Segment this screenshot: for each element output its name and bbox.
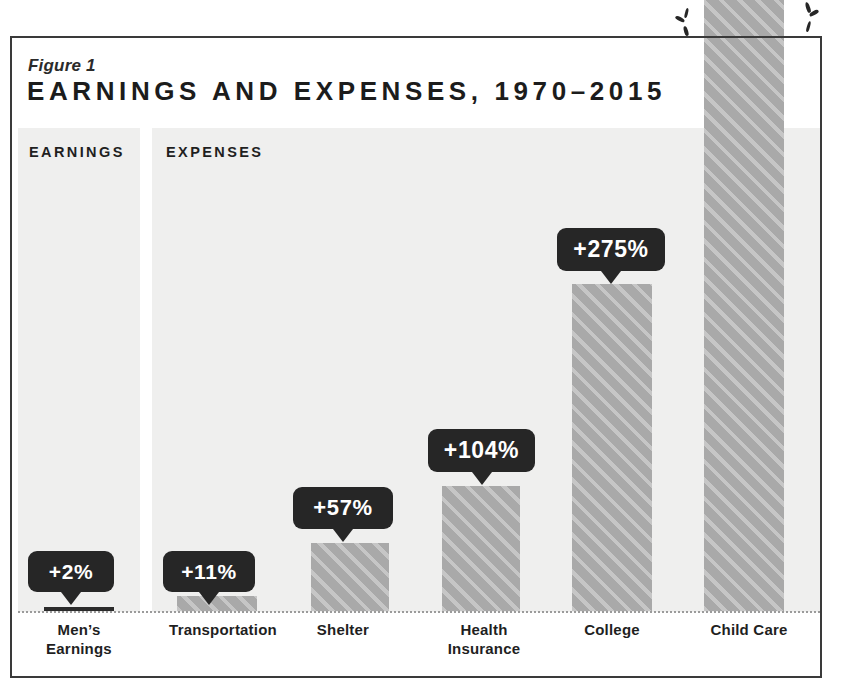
x-axis-label-line1: College — [553, 620, 671, 639]
x-axis-label-health-insurance: Health Insurance — [417, 620, 551, 658]
value-callout-mens-earnings: +2% — [28, 551, 114, 592]
panel-heading-earnings: EARNINGS — [29, 144, 125, 160]
x-axis-label-line1: Shelter — [293, 620, 393, 639]
x-axis-label-child-care: Child Care — [682, 620, 816, 639]
burst-spark-left-icon — [672, 6, 702, 38]
x-axis-label-transportation: Transportation — [152, 620, 294, 639]
x-axis-label-line2: Insurance — [417, 639, 551, 658]
value-callout-health-insurance: +104% — [428, 429, 535, 472]
burst-spark-right-icon — [796, 2, 826, 36]
page-title: EARNINGS AND EXPENSES, 1970–2015 — [27, 76, 666, 107]
value-callout-shelter: +57% — [293, 487, 393, 529]
figure-frame — [10, 36, 822, 678]
x-axis-label-shelter: Shelter — [293, 620, 393, 639]
x-axis-label-line1: Transportation — [152, 620, 294, 639]
x-axis-label-line1: Men’s — [18, 620, 140, 639]
figure-label: Figure 1 — [28, 56, 96, 76]
axis-baseline — [18, 611, 820, 613]
value-callout-college: +275% — [557, 228, 665, 271]
x-axis-label-line1: Child Care — [682, 620, 816, 639]
x-axis-label-line2: Earnings — [18, 639, 140, 658]
x-axis-label-mens-earnings: Men’s Earnings — [18, 620, 140, 658]
x-axis-label-college: College — [553, 620, 671, 639]
value-callout-transportation: +11% — [163, 551, 255, 592]
panel-heading-expenses: EXPENSES — [166, 144, 263, 160]
x-axis-label-line1: Health — [417, 620, 551, 639]
